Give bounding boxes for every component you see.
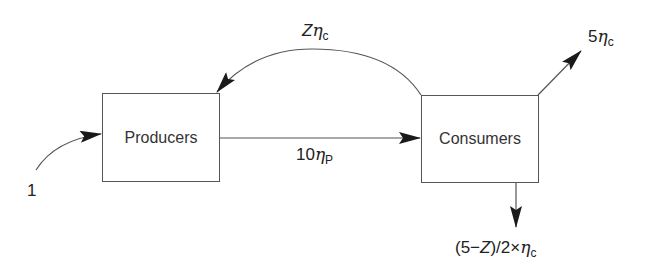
output-up-label: 5ηc [588,28,614,48]
feedback-arrow [217,49,421,95]
producers-to-consumers-label: 10ηP [296,146,333,166]
consumers-node: Consumers [421,95,539,183]
consumers-label: Consumers [439,130,521,148]
input-arrow [36,134,101,170]
output-up-arrow [538,51,581,95]
input-label: 1 [27,182,36,199]
producers-node: Producers [102,93,220,182]
feedback-label: Zηc [302,22,329,42]
output-down-label: (5−Z)/2×ηc [455,239,536,259]
producers-label: Producers [125,129,198,147]
